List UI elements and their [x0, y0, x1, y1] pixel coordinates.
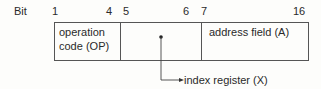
index-register-label: index register (X)	[184, 74, 268, 87]
index-connector-line	[161, 37, 180, 80]
index-pointer-graphic	[0, 0, 321, 89]
